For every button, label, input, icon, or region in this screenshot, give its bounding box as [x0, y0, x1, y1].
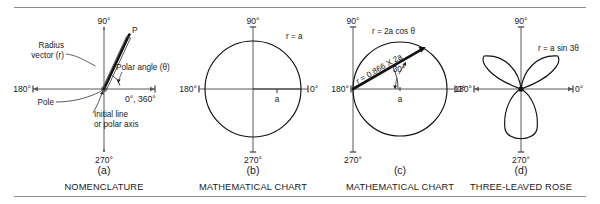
panel-a-point-p-label: P: [132, 25, 138, 35]
panel-b-equation: r = a: [286, 32, 303, 41]
panel-d-pole-marker: [518, 86, 523, 91]
panel-a-radius-vector-label-line2: vector (r): [31, 51, 64, 60]
panel-d-letter: (d): [515, 164, 528, 176]
panel-a-caption: NOMENCLATURE: [64, 182, 143, 192]
panel-d-label-0: 0°: [575, 84, 583, 94]
panel-b-label-180: 180°: [179, 84, 197, 94]
panel-c-label-90: 90°: [347, 16, 360, 26]
panel-a-point-p-marker: [128, 33, 130, 35]
panel-a-polar-angle-arrowhead: [117, 79, 121, 83]
polar-figure-svg: 90° 180° 270° 0°, 360° P Radius vector (…: [0, 0, 600, 204]
panel-d-axis-arrow-left: [474, 87, 479, 92]
figure-container: 90° 180° 270° 0°, 360° P Radius vector (…: [0, 0, 600, 204]
panel-a-letter: (a): [98, 164, 111, 176]
panel-a-label-90: 90°: [98, 16, 111, 26]
bottom-divider-rule: [14, 196, 586, 197]
panel-b-letter: (b): [247, 164, 260, 176]
panel-a-pole-label: Pole: [38, 98, 55, 107]
panel-d-caption: THREE-LEAVED ROSE: [470, 182, 572, 192]
panel-d-label-90: 90°: [515, 16, 528, 26]
top-divider-rule: [14, 7, 586, 8]
panel-d-three-leaved-rose: 90° 180° 270° 0° r = a sin 3θ (d) THREE-…: [454, 16, 583, 192]
panel-c-letter: (c): [394, 164, 406, 176]
panel-a-nomenclature: 90° 180° 270° 0°, 360° P Radius vector (…: [13, 16, 170, 192]
panel-a-label-0-360: 0°, 360°: [125, 94, 156, 104]
panel-c-label-180: 180°: [331, 84, 349, 94]
panel-b-label-0: 0°: [310, 84, 318, 94]
panel-b-mathematical-chart: 90° 180° 270° 0° r = a a (b) MATHEMATICA…: [179, 16, 318, 192]
panel-b-label-90: 90°: [247, 16, 260, 26]
panel-b-caption: MATHEMATICAL CHART: [199, 182, 307, 192]
panel-a-initial-line-label-line1: Initial line: [94, 110, 129, 119]
panel-a-pole-leader: [56, 92, 101, 103]
panel-a-initial-line-label-line2: or polar axis: [94, 120, 139, 129]
panel-c-caption: MATHEMATICAL CHART: [346, 182, 454, 192]
panel-c-angle-30-label: 30°: [393, 65, 405, 74]
panel-a-axis-arrow-left: [33, 87, 38, 92]
panel-a-axis-arrow-right: [150, 87, 155, 92]
panel-c-label-270: 270°: [344, 155, 362, 165]
panel-c-equation: r = 2a cos θ: [372, 27, 415, 36]
panel-c-mathematical-chart: 90° 180° 270° 0° r = 2a cos θ r = 0.866 …: [331, 16, 465, 192]
panel-a-label-180: 180°: [13, 84, 31, 94]
panel-a-radius-vector-leader: [66, 54, 96, 66]
panel-d-equation: r = a sin 3θ: [538, 44, 579, 53]
panel-d-label-180: 180°: [454, 84, 472, 94]
panel-a-radius-vector: [104, 35, 129, 89]
panel-a-radius-vector-label-line1: Radius: [39, 41, 65, 50]
panel-d-petal-2: [483, 56, 521, 89]
panel-d-petal-1: [521, 56, 559, 89]
panel-a-polar-angle-label: Polar angle (θ): [116, 63, 170, 72]
panel-b-radius-a-label: a: [275, 95, 280, 104]
panel-d-axis-arrow-right: [568, 87, 573, 92]
panel-c-radius-a-label: a: [398, 95, 403, 104]
